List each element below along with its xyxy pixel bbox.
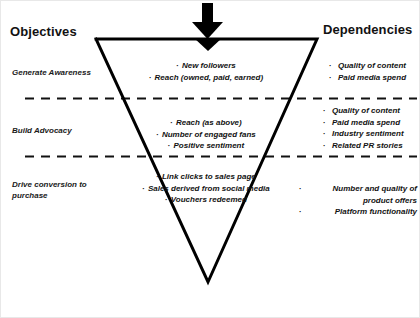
list-item: ·Vouchers redeemed [141, 194, 271, 206]
page-title-objectives: Objectives [10, 24, 77, 39]
list-item: ·New followers [121, 60, 291, 72]
diagram-vector-layer [1, 1, 420, 318]
list-item: ·Paid media spend [323, 117, 420, 129]
list-item: ·Industry sentiment [323, 128, 420, 140]
bullet-dot-icon: · [329, 72, 332, 84]
list-item: ·Number and quality of product offers [299, 183, 417, 206]
bullet-dot-icon: · [165, 195, 168, 204]
dependencies-list-stage-2: ·Quality of content ·Paid media spend ·I… [323, 105, 420, 151]
list-item-label: Reach (as above) [176, 118, 242, 127]
list-item: ·Quality of content [323, 105, 420, 117]
stage-label-generate-awareness: Generate Awareness [12, 67, 104, 78]
bullet-dot-icon: · [149, 73, 152, 82]
list-item-label: Industry sentiment [332, 129, 404, 138]
list-item-label: Number of engaged fans [162, 130, 256, 139]
list-item: ·Paid media spend [329, 72, 420, 84]
bullet-dot-icon: · [323, 117, 326, 129]
bullet-dot-icon: · [156, 130, 159, 139]
list-item-label: Reach (owned, paid, earned) [155, 73, 263, 82]
list-item-label: Vouchers redeemed [171, 195, 247, 204]
page-title-dependencies: Dependencies [323, 22, 412, 37]
list-item-label: New followers [182, 61, 236, 70]
list-item: ·Quality of content [329, 60, 420, 72]
list-item-label: Platform functionality [335, 207, 417, 216]
bullet-dot-icon: · [176, 61, 179, 70]
list-item-label: Quality of content [338, 61, 406, 70]
list-item-label: Positive sentiment [173, 141, 244, 150]
list-item: ·Sales derived from social media [141, 183, 271, 195]
stage-label-drive-conversion: Drive conversion to purchase [12, 179, 104, 201]
list-item-label: Paid media spend [332, 118, 400, 127]
dependencies-list-stage-3: ·Number and quality of product offers ·P… [299, 183, 417, 218]
list-item: ·Related PR stories [323, 140, 420, 152]
core-metrics-list-stage-3: ·Link clicks to sales page ·Sales derive… [141, 171, 271, 206]
thick-down-arrow-icon [192, 3, 223, 51]
list-item-label: Sales derived from social media [148, 184, 270, 193]
core-metrics-list-stage-1: ·New followers ·Reach (owned, paid, earn… [121, 60, 291, 83]
bullet-dot-icon: · [323, 105, 326, 117]
list-item: ·Reach (as above) [123, 117, 289, 129]
list-item: ·Platform functionality [299, 206, 417, 218]
bullet-dot-icon: · [323, 128, 326, 140]
dependencies-list-stage-1: ·Quality of content ·Paid media spend [329, 60, 420, 83]
bullet-dot-icon: · [142, 184, 145, 193]
bullet-dot-icon: · [329, 60, 332, 72]
list-item-label: Quality of content [332, 106, 400, 115]
list-item: ·Reach (owned, paid, earned) [121, 72, 291, 84]
stage-label-build-advocacy: Build Advocacy [12, 125, 104, 136]
funnel-diagram-canvas: Objectives Dependencies Generate Awarene… [0, 0, 420, 318]
bullet-dot-icon: · [170, 118, 173, 127]
list-item-label: Related PR stories [332, 141, 403, 150]
list-item-label: Link clicks to sales page [162, 172, 256, 181]
bullet-dot-icon: · [299, 183, 302, 195]
list-item-label: Paid media spend [338, 73, 406, 82]
bullet-dot-icon: · [156, 172, 159, 181]
list-item: ·Number of engaged fans [123, 129, 289, 141]
bullet-dot-icon: · [168, 141, 171, 150]
bullet-dot-icon: · [323, 140, 326, 152]
list-item-label: Number and quality of product offers [333, 184, 417, 205]
list-item: ·Link clicks to sales page [141, 171, 271, 183]
list-item: ·Positive sentiment [123, 140, 289, 152]
core-metrics-list-stage-2: ·Reach (as above) ·Number of engaged fan… [123, 117, 289, 152]
bullet-dot-icon: · [299, 206, 302, 218]
